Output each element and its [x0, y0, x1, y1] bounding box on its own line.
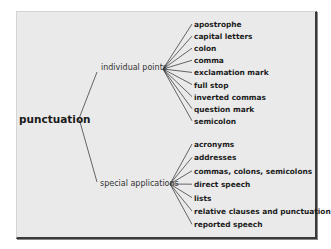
leaf-node: colon [194, 44, 216, 53]
connector-leaf [170, 184, 192, 211]
leaf-node: commas, colons, semicolons [194, 167, 313, 176]
connector-leaf [170, 144, 192, 184]
leaf-node: direct speech [194, 180, 250, 189]
connector-leaf [163, 36, 192, 69]
leaf-node: apostrophe [194, 20, 242, 29]
leaf-node: semicolon [194, 117, 236, 126]
leaves-special-applications: acronymsaddressescommas, colons, semicol… [194, 140, 331, 229]
connector-root-individual [78, 72, 97, 119]
leaf-node: addresses [194, 153, 237, 162]
connector-leaf [163, 69, 192, 72]
leaf-node: exclamation mark [194, 68, 270, 77]
root-node: punctuation [19, 113, 91, 125]
leaf-node: relative clauses and punctuation [194, 207, 331, 216]
leaf-node: lists [194, 194, 212, 203]
branch-special-applications: special applications [100, 179, 179, 188]
connector-leaf [163, 69, 192, 109]
leaf-node: inverted commas [194, 93, 267, 102]
mind-map: punctuation individual points special ap… [0, 0, 331, 249]
leaf-node: capital letters [194, 32, 253, 41]
leaf-node: comma [194, 56, 224, 65]
connector-root-special [78, 119, 97, 182]
connector-leaf [170, 184, 192, 224]
connector-leaf [163, 24, 192, 69]
leaf-node: full stop [194, 81, 228, 90]
connectors-individual-points [163, 24, 192, 121]
leaf-node: question mark [194, 105, 255, 114]
leaves-individual-points: apostrophecapital letterscoloncommaexcla… [194, 20, 270, 126]
leaf-node: reported speech [194, 220, 262, 229]
leaf-node: acronyms [194, 140, 235, 149]
branch-individual-points: individual points [101, 63, 167, 72]
connector-leaf [163, 69, 192, 97]
connector-leaf [163, 48, 192, 69]
